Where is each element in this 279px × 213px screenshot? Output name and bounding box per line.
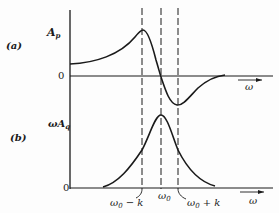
- ap-main: A: [47, 26, 56, 39]
- m-left-main: ω: [110, 197, 118, 208]
- m-right-suffix: + k: [200, 197, 221, 208]
- diagram-canvas: [0, 0, 279, 213]
- m-right-main: ω: [187, 197, 195, 208]
- m-left-suffix: − k: [123, 197, 144, 208]
- m-center-sub: 0: [166, 195, 170, 203]
- panel-a-tag: (a): [6, 41, 22, 51]
- ap-sub: p: [56, 31, 61, 40]
- curve-ap: [70, 30, 225, 105]
- right-marker-hook: [178, 189, 186, 199]
- waq-sub: q: [65, 122, 70, 131]
- panel-a-xlabel: ω: [245, 82, 253, 92]
- panel-b-tag: (b): [10, 133, 26, 143]
- waq-main: ωA: [48, 118, 65, 129]
- panel-a-zero: 0: [58, 71, 64, 81]
- bottom-omega-arrowhead: [258, 190, 264, 194]
- marker-omega0-plus-k: ω0 + k: [187, 198, 220, 210]
- marker-omega0: ω0: [158, 191, 171, 203]
- marker-omega0-minus-k: ω0 − k: [110, 198, 143, 210]
- panel-b-ylabel: ωAq: [48, 119, 70, 130]
- m-center-main: ω: [158, 190, 166, 201]
- curve-omega-aq: [103, 115, 215, 187]
- panel-b-xlabel: ω: [249, 196, 257, 206]
- panel-b-zero: 0: [63, 183, 69, 193]
- panel-a-ylabel: Ap: [47, 27, 60, 39]
- top-omega-arrowhead: [256, 78, 262, 82]
- resonance-diagram: (a) Ap 0 ω (b) ωAq 0 ω ω0 − k ω0 ω0 + k: [0, 0, 279, 213]
